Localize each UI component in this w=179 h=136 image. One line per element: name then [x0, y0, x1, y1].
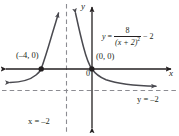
- y-axis-label: y: [81, 2, 85, 11]
- horizontal-asymptote-label: y = –2: [137, 95, 159, 104]
- equation-tail: − 2: [143, 32, 154, 41]
- graph-figure: (–4, 0) (0, 0) 0 x y y = –2 x = –2 y = 8…: [0, 0, 179, 136]
- curve-left-branch: [10, 13, 59, 83]
- point-label-neg4-0: (–4, 0): [16, 51, 39, 60]
- equation-denominator-base: (x + 2): [115, 38, 137, 47]
- equation-numerator: 8: [124, 27, 132, 35]
- graph-canvas: [0, 0, 179, 136]
- origin-label: 0: [86, 70, 90, 78]
- x-axis-label: x: [169, 69, 173, 78]
- equation-lhs: y: [102, 32, 106, 41]
- equation-fraction: 8 (x + 2)2: [114, 27, 141, 47]
- equation-label: y = 8 (x + 2)2 − 2: [102, 27, 154, 47]
- equation-denominator-exponent: 2: [137, 36, 140, 42]
- vertical-asymptote-label: x = –2: [28, 117, 50, 126]
- equation-denominator: (x + 2)2: [114, 37, 141, 47]
- point-label-0-0: (0, 0): [96, 52, 114, 61]
- point-marker-neg4-0: [39, 66, 44, 71]
- equation-equals-sign: =: [108, 32, 113, 41]
